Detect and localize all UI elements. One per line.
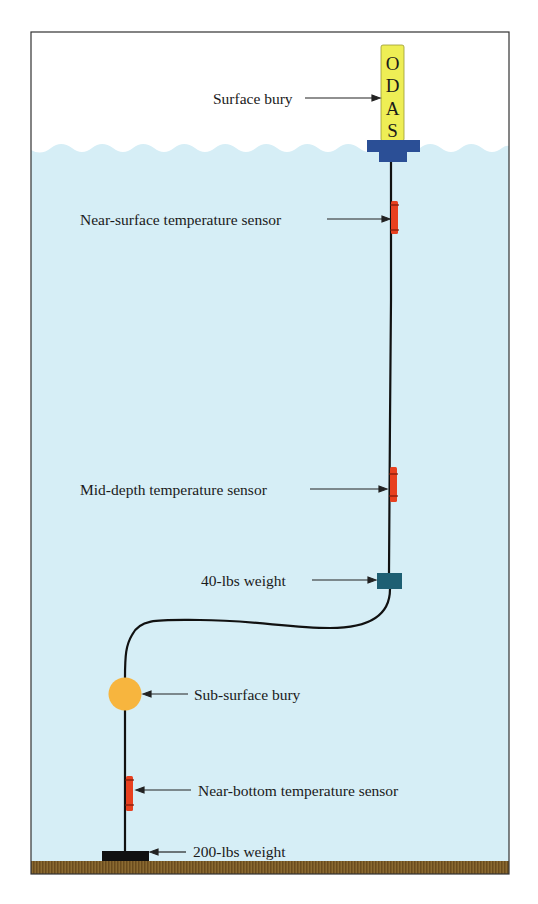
label-sub-surface-bury: Sub-surface bury: [194, 686, 301, 703]
near-surface-sensor: [390, 201, 399, 234]
buoy-base-plate: [367, 140, 420, 152]
buoy-letter-d: D: [386, 75, 400, 96]
label-near-surface-sensor: Near-surface temperature sensor: [80, 211, 282, 228]
near-bottom-sensor: [125, 776, 134, 811]
label-weight-40: 40-lbs weight: [201, 572, 287, 589]
buoy-letter-a: A: [386, 98, 400, 119]
weight-40-lbs: [377, 573, 402, 589]
seabed-ground: [31, 861, 509, 874]
buoy-base-block: [379, 152, 407, 162]
label-weight-200: 200-lbs weight: [193, 843, 286, 860]
label-mid-depth-sensor: Mid-depth temperature sensor: [80, 481, 268, 498]
mooring-diagram: O D A S: [0, 0, 538, 904]
label-surface-bury: Surface bury: [213, 90, 293, 107]
weight-200-lbs: [102, 851, 149, 861]
buoy-letter-o: O: [386, 53, 400, 74]
mid-depth-sensor: [389, 467, 398, 502]
buoy-letter-s: S: [387, 120, 398, 141]
sub-surface-buoy: [109, 678, 142, 711]
label-near-bottom-sensor: Near-bottom temperature sensor: [198, 782, 399, 799]
water-body: [31, 144, 509, 861]
